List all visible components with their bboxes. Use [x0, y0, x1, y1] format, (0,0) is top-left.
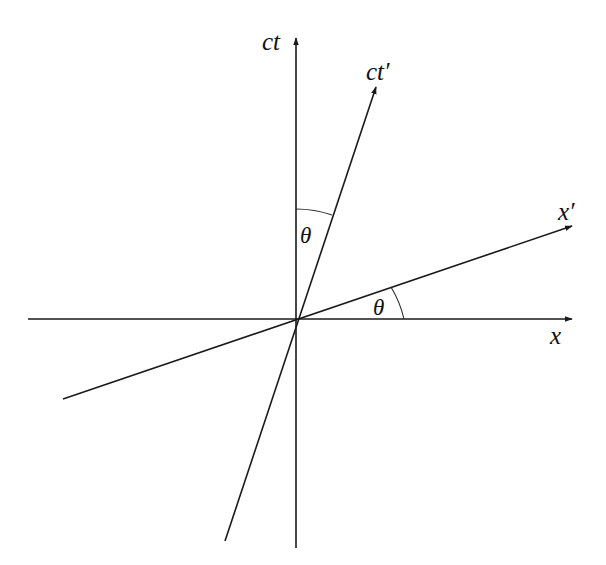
- spacetime-diagram: ct ct′ x′ x θ θ: [0, 0, 606, 565]
- x-prime-axis: [63, 226, 572, 399]
- ct-axis-label: ct: [262, 28, 281, 55]
- angle-arc-ct: [296, 209, 332, 215]
- x-prime-axis-label: x′: [557, 198, 575, 225]
- angle-arc-x: [391, 287, 404, 319]
- x-axis-label: x: [549, 322, 561, 349]
- theta-label-top: θ: [300, 223, 311, 248]
- ct-prime-axis-label: ct′: [366, 58, 390, 85]
- theta-label-right: θ: [373, 295, 384, 320]
- ct-prime-axis: [225, 87, 376, 541]
